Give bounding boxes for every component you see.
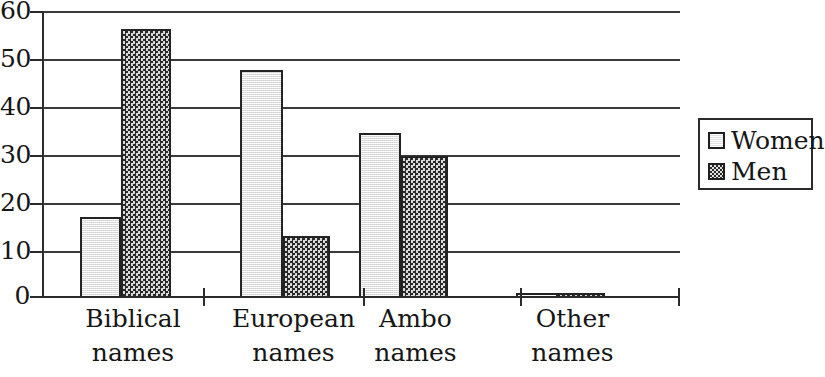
y-tick-label-60: 60	[0, 0, 30, 23]
x-axis-baseline	[43, 296, 680, 298]
checkered-square-icon	[708, 163, 725, 180]
bar-women-biblical	[80, 217, 121, 298]
x-label-biblical: Biblical names	[63, 302, 203, 370]
y-tick-label-20: 20	[0, 190, 30, 215]
legend-item-women: Women	[708, 125, 811, 156]
bar-men-ambo	[401, 156, 448, 298]
legend-label-men: Men	[731, 159, 788, 184]
y-tick-label-50: 50	[0, 46, 30, 71]
x-label-ambo: Ambo names	[338, 302, 493, 370]
x-axis-labels: Biblical names European names Ambo names…	[43, 302, 680, 377]
legend: Women Men	[698, 118, 813, 190]
bar-women-ambo	[359, 133, 401, 299]
light-square-icon	[708, 132, 725, 149]
y-tick-label-40: 40	[0, 94, 30, 119]
bar-men-european	[283, 236, 330, 298]
x-label-other: Other names	[495, 302, 650, 370]
plot-area	[43, 11, 680, 298]
y-tick-label-10: 10	[0, 238, 30, 263]
legend-label-women: Women	[731, 128, 825, 153]
legend-item-men: Men	[708, 156, 811, 187]
bar-women-european	[240, 70, 283, 298]
bar-men-biblical	[121, 29, 171, 298]
y-tick-label-30: 30	[0, 142, 30, 167]
y-tick-label-0: 0	[0, 283, 30, 308]
